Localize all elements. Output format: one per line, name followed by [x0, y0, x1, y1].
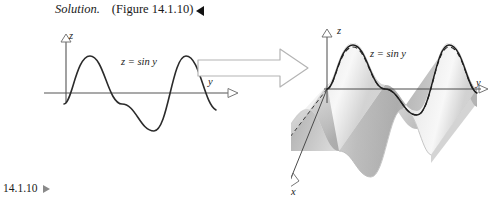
equation-label-3d: z = sin y — [370, 48, 406, 59]
axis-label-z-3d: z — [337, 25, 341, 36]
caption-number: 14.1.10 — [3, 182, 38, 194]
hollow-right-triangle-icon — [43, 185, 50, 193]
solution-label: Solution. — [55, 2, 100, 16]
equation-label-2d-text: z = sin y — [121, 56, 157, 67]
equation-label-3d-text: z = sin y — [370, 48, 406, 59]
axis-label-y-3d: y — [476, 77, 481, 88]
figure-caption: 14.1.10 — [3, 182, 50, 194]
figure-reference: (Figure 14.1.10) — [112, 2, 194, 16]
axis-label-z-2d: z — [69, 30, 73, 41]
axis-z-3d-arrowhead-icon — [322, 29, 332, 37]
solution-header: Solution.(Figure 14.1.10) — [55, 2, 193, 17]
solid-left-triangle-icon — [196, 6, 204, 16]
equation-label-2d: z = sin y — [121, 56, 157, 67]
figure-container: Solution.(Figure 14.1.10) 14.1.10 z y z … — [0, 0, 491, 208]
axis-label-x-3d: x — [291, 186, 296, 197]
